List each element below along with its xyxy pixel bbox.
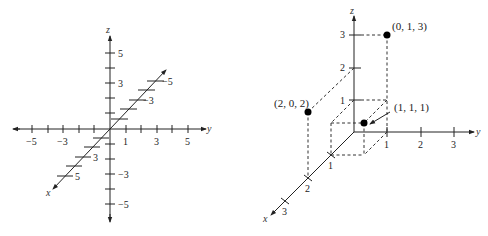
left-y-tick-label: −3 <box>57 136 68 147</box>
left-y-axis-label: y <box>206 123 212 134</box>
left-x-tick-label: 5 <box>75 171 80 182</box>
left-y-tick-label: −5 <box>26 136 37 147</box>
right-z-tick-label: 3 <box>340 29 345 40</box>
right-x-axis-label: x <box>262 213 268 224</box>
left-y-tick-label: 3 <box>154 136 159 147</box>
left-x-tick-label: −5 <box>162 76 173 87</box>
right-y-tick-label: 2 <box>418 139 423 150</box>
right-x-tick-label: 1 <box>328 160 333 171</box>
left-z-axis-label: z <box>105 24 110 35</box>
right-z-axis-label: z <box>349 5 354 16</box>
right-x-axis <box>271 132 354 215</box>
right-points-diagram: (0, 1, 3) (2, 0, 2) (1, 1, 1) z y x 1 2 … <box>262 5 481 224</box>
point-label: (0, 1, 3) <box>392 20 427 33</box>
point-2-0-2 <box>305 109 312 116</box>
left-y-tick-label: 1 <box>123 136 128 147</box>
point-label: (2, 0, 2) <box>274 97 309 110</box>
left-z-tick-label: −3 <box>118 169 129 180</box>
left-x-tick-label: −3 <box>143 95 154 106</box>
point-label: (1, 1, 1) <box>394 101 429 114</box>
right-z-ticks <box>349 35 361 100</box>
point-0-1-3 <box>384 32 391 39</box>
figure-canvas: z y x −5 −3 1 3 5 5 3 −3 −5 3 5 −3 −5 <box>0 0 488 236</box>
left-x-axis-label: x <box>45 187 51 198</box>
point-1-1-1 <box>361 120 368 127</box>
left-y-tick-label: 5 <box>185 136 190 147</box>
right-y-tick-label: 3 <box>451 139 456 150</box>
left-z-tick-label: 3 <box>118 78 123 89</box>
right-y-tick-label: 1 <box>384 139 389 150</box>
left-axes-diagram: z y x −5 −3 1 3 5 5 3 −3 −5 3 5 −3 −5 <box>13 24 212 222</box>
right-z-tick-label: 1 <box>340 95 345 106</box>
left-z-tick-label: 5 <box>118 48 123 59</box>
right-x-tick-label: 2 <box>305 183 310 194</box>
right-y-axis-label: y <box>475 126 481 137</box>
right-z-tick-label: 2 <box>340 62 345 73</box>
right-x-tick-label: 3 <box>282 206 287 217</box>
left-z-tick-label: −5 <box>118 199 129 210</box>
left-x-tick-label: 3 <box>93 152 98 163</box>
